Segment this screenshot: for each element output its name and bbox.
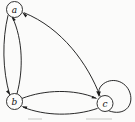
edge-c-to-b-path [23,107,97,114]
edge-a-to-b-path [4,16,10,95]
node-a-label: a [12,5,17,15]
caption-smudge-left [28,118,42,120]
node-c[interactable]: c [97,96,113,112]
graph-figure: a b c [0,0,135,122]
edge-b-to-c [22,91,97,98]
edge-a-to-b [4,16,11,96]
node-b[interactable]: b [7,94,23,110]
edge-b-to-c-path [22,91,95,98]
node-c-label: c [102,99,107,109]
edge-c-to-a-path [24,13,100,96]
edge-c-to-b [21,106,97,114]
edge-b-to-a [12,15,22,93]
directed-graph-canvas: a b c [0,0,135,122]
edge-b-to-a-path [13,17,22,93]
edge-c-to-a [22,12,100,96]
edge-c-to-b-arrowhead [21,106,27,109]
node-a[interactable]: a [7,2,23,18]
edge-b-to-c-arrowhead [91,96,97,99]
node-b-label: b [12,97,18,107]
caption-smudge-right [86,118,112,120]
